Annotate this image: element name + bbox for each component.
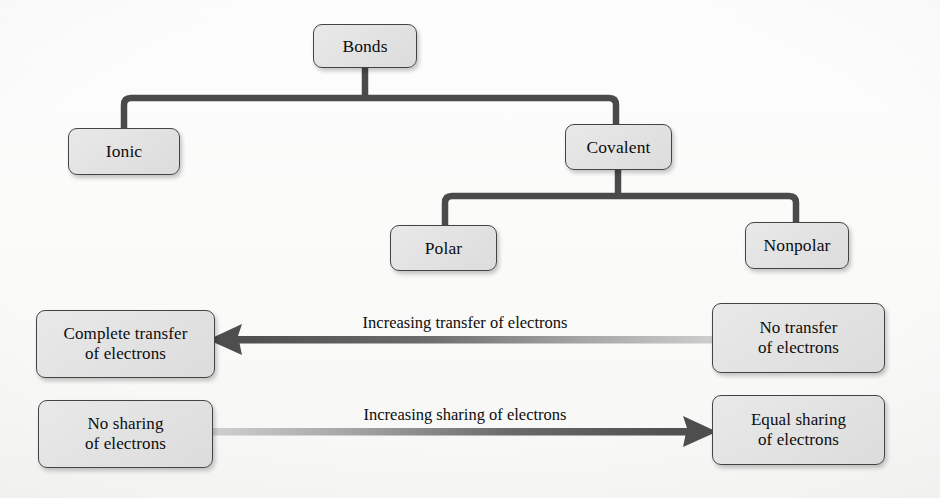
diagram-canvas: Bonds Ionic Covalent Polar Nonpolar Comp… (0, 0, 940, 498)
connector-bus-level2 (124, 98, 616, 130)
node-no-transfer[interactable]: No transfer of electrons (712, 303, 885, 373)
node-polar-label: Polar (425, 238, 462, 259)
node-ionic-label: Ionic (106, 141, 142, 162)
arrow-label-increasing-sharing: Increasing sharing of electrons (305, 405, 625, 425)
node-polar[interactable]: Polar (390, 225, 497, 271)
node-covalent-label: Covalent (587, 137, 651, 158)
node-bonds-label: Bonds (342, 36, 387, 57)
node-no-transfer-label: No transfer of electrons (758, 318, 839, 358)
node-equal-sharing[interactable]: Equal sharing of electrons (712, 395, 885, 465)
node-no-sharing[interactable]: No sharing of electrons (38, 400, 213, 468)
connector-bus-level3 (445, 196, 796, 227)
node-ionic[interactable]: Ionic (68, 128, 180, 175)
node-no-sharing-label: No sharing of electrons (85, 414, 166, 454)
node-complete-transfer-label: Complete transfer of electrons (64, 324, 188, 364)
node-equal-sharing-label: Equal sharing of electrons (751, 410, 846, 450)
node-bonds[interactable]: Bonds (313, 24, 417, 68)
node-nonpolar[interactable]: Nonpolar (745, 222, 849, 269)
arrow-label-increasing-transfer: Increasing transfer of electrons (305, 313, 625, 333)
node-complete-transfer[interactable]: Complete transfer of electrons (36, 310, 215, 378)
node-covalent[interactable]: Covalent (565, 124, 672, 170)
node-nonpolar-label: Nonpolar (764, 235, 831, 256)
